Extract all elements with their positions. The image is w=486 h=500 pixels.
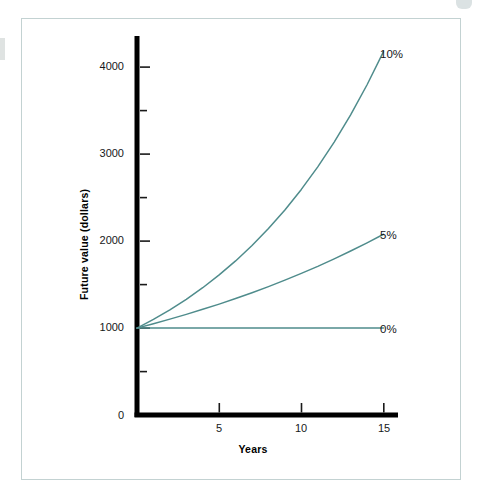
axis-group <box>135 36 399 417</box>
series-label-5-percent: 5% <box>380 229 397 241</box>
x-tick-label-15: 15 <box>368 422 400 434</box>
y-tick-label-3000: 3000 <box>86 147 124 159</box>
x-axis-title: Years <box>203 443 303 455</box>
series-label-10-percent: 10% <box>380 48 403 60</box>
chart-canvas <box>0 0 486 500</box>
x-axis-ticks <box>219 403 383 413</box>
curve-10-percent <box>137 52 384 328</box>
x-tick-label-5: 5 <box>203 422 235 434</box>
series-label-0-percent: 0% <box>380 323 397 335</box>
y-origin-label: 0 <box>86 409 124 421</box>
y-axis-title: Future value (dollars) <box>78 189 90 300</box>
y-tick-label-1000: 1000 <box>86 321 124 333</box>
y-tick-label-4000: 4000 <box>86 60 124 72</box>
chart-plot-area: 4000 3000 2000 1000 0 5 10 15 Years Futu… <box>0 0 486 500</box>
figure-page: 4000 3000 2000 1000 0 5 10 15 Years Futu… <box>0 0 486 500</box>
series-curves <box>137 52 384 328</box>
y-tick-label-2000: 2000 <box>86 234 124 246</box>
x-tick-label-10: 10 <box>285 422 317 434</box>
curve-5-percent <box>137 234 384 328</box>
